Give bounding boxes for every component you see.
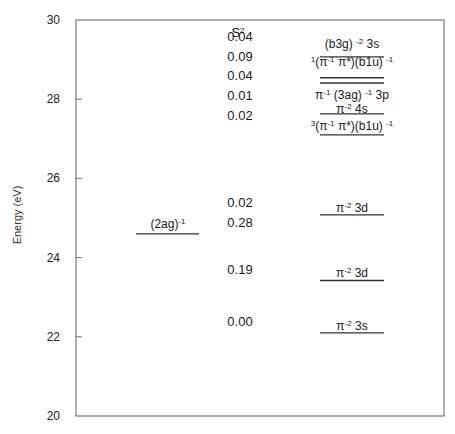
s2-value: 0.02	[227, 108, 252, 123]
s2-value: 0.04	[227, 68, 252, 83]
right-levels: (b3g) -2 3s1(π-1 π*)(b1u) -1π-1 (3ag) -1…	[311, 36, 394, 333]
y-axis: 202224262830	[47, 13, 82, 423]
s2-value: 0.02	[227, 195, 252, 210]
energy-level-label: (2ag)-1	[150, 216, 186, 231]
y-tick-label: 28	[47, 92, 61, 106]
s2-value: 0.04	[227, 29, 252, 44]
energy-level-label: π-2 3s	[336, 318, 367, 333]
energy-level-label: 3(π-1 π*)(b1u) -1	[311, 119, 394, 134]
left-levels: (2ag)-1	[136, 216, 199, 234]
s2-column: 0.040.090.040.010.020.020.280.190.00	[227, 29, 252, 329]
s2-value: 0.01	[227, 88, 252, 103]
s2-value: 0.09	[227, 49, 252, 64]
energy-level-label: π-2 4s	[336, 102, 367, 117]
energy-level-label: 1(π-1 π*)(b1u) -1	[311, 54, 394, 69]
y-tick-label: 20	[47, 409, 61, 423]
s2-value: 0.19	[227, 262, 252, 277]
y-tick-label: 22	[47, 330, 61, 344]
y-tick-label: 30	[47, 13, 61, 27]
energy-level-label: (b3g) -2 3s	[325, 36, 380, 51]
energy-level-label: π-2 3d	[336, 266, 368, 281]
s2-value: 0.00	[227, 314, 252, 329]
energy-level-label: π-1 (3ag) -1 3p	[315, 88, 389, 103]
plot-frame	[76, 20, 444, 416]
y-tick-label: 24	[47, 251, 61, 265]
energy-level-label: π-2 3d	[336, 201, 368, 216]
y-tick-label: 26	[47, 171, 61, 185]
y-axis-title: Energy (eV)	[11, 186, 23, 245]
energy-level-diagram: 202224262830 Energy (eV) S2 0.040.090.04…	[0, 0, 455, 434]
s2-value: 0.28	[227, 215, 252, 230]
